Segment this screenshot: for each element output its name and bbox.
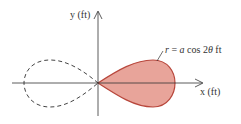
eq-unit: ft	[215, 44, 221, 55]
x-axis-label: x (ft)	[200, 86, 220, 98]
dashed-loop	[24, 60, 98, 107]
eq-equals: =	[171, 44, 177, 55]
y-axis-label: y (ft)	[70, 9, 90, 21]
eq-a: a	[180, 44, 185, 55]
eq-r: r	[165, 44, 169, 55]
equation-label: r = a cos 2θ ft	[165, 44, 222, 55]
leader-line	[157, 51, 163, 61]
shaded-loop	[98, 60, 175, 107]
polar-diagram: y (ft) x (ft) r = a cos 2θ ft	[0, 0, 241, 124]
eq-cos: cos 2	[187, 44, 208, 55]
eq-theta: θ	[208, 44, 213, 55]
